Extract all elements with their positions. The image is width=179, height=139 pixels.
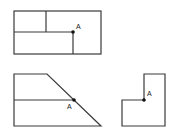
geometry-diagram: A A A [0, 0, 179, 139]
point-a-marker [142, 98, 146, 102]
figure-l-shape: A [122, 74, 165, 126]
point-a-label: A [147, 90, 152, 97]
point-a-label: A [67, 103, 72, 110]
figure-trapezoid: A [14, 74, 101, 126]
figure-rectangle: A [14, 11, 101, 54]
point-a-label: A [76, 23, 81, 30]
point-a-marker [72, 98, 76, 102]
point-a-marker [71, 30, 75, 34]
